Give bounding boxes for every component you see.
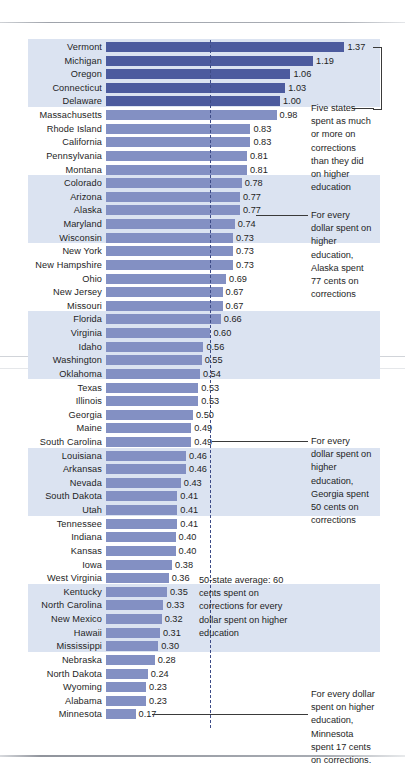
state-label: Louisiana <box>28 450 102 462</box>
value-label: 0.55 <box>205 354 223 366</box>
value-label: 0.41 <box>180 518 198 530</box>
state-label: North Carolina <box>28 599 102 611</box>
value-label: 0.38 <box>175 559 193 571</box>
state-label: Utah <box>28 504 102 516</box>
value-label: 0.46 <box>189 450 207 462</box>
state-label: Nebraska <box>28 654 102 666</box>
value-bar <box>106 96 280 106</box>
value-bar <box>106 696 146 706</box>
value-bar <box>106 342 203 352</box>
value-label: 0.41 <box>180 504 198 516</box>
value-bar <box>106 628 160 638</box>
value-bar <box>106 178 242 188</box>
value-label: 0.36 <box>172 572 190 584</box>
value-bar <box>106 165 247 175</box>
value-bar <box>106 437 191 447</box>
state-label: Georgia <box>28 409 102 421</box>
state-label: New Mexico <box>28 613 102 625</box>
state-label: Texas <box>28 382 102 394</box>
state-label: Hawaii <box>28 627 102 639</box>
value-label: 0.67 <box>226 300 244 312</box>
value-bar <box>106 423 191 433</box>
value-bar <box>106 478 181 488</box>
value-bar <box>106 151 247 161</box>
value-bar <box>106 669 148 679</box>
value-bar <box>106 396 198 406</box>
value-label: 0.60 <box>213 327 231 339</box>
value-bar <box>106 42 344 52</box>
value-bar <box>106 314 221 324</box>
state-label: New Hampshire <box>28 259 102 271</box>
state-label: Illinois <box>28 395 102 407</box>
state-label: Alabama <box>28 695 102 707</box>
value-bar <box>106 410 193 420</box>
value-bar <box>106 301 223 311</box>
value-label: 0.73 <box>236 232 254 244</box>
value-bar <box>106 655 155 665</box>
state-label: Idaho <box>28 341 102 353</box>
state-label: Arizona <box>28 191 102 203</box>
value-bar <box>106 614 162 624</box>
value-bar <box>106 641 158 651</box>
value-label: 0.54 <box>203 368 221 380</box>
state-label: South Dakota <box>28 490 102 502</box>
value-label: 0.23 <box>149 695 167 707</box>
value-bar <box>106 464 186 474</box>
value-bar <box>106 573 169 583</box>
value-bar <box>106 682 146 692</box>
value-bar <box>106 546 176 556</box>
value-label: 0.67 <box>226 286 244 298</box>
state-label: West Virginia <box>28 572 102 584</box>
state-label: Michigan <box>28 55 102 67</box>
state-label: Vermont <box>28 41 102 53</box>
state-label: Wisconsin <box>28 232 102 244</box>
state-label: Florida <box>28 313 102 325</box>
state-label: Colorado <box>28 177 102 189</box>
state-label: California <box>28 136 102 148</box>
value-label: 0.40 <box>179 531 197 543</box>
value-label: 0.74 <box>238 218 256 230</box>
annotation-minnesota: For every dollar spent on higher educati… <box>311 688 397 767</box>
value-bar <box>106 219 235 229</box>
state-label: Oregon <box>28 68 102 80</box>
value-bar <box>106 83 285 93</box>
value-label: 1.00 <box>283 95 301 107</box>
value-bar <box>106 519 177 529</box>
value-label: 0.81 <box>250 164 268 176</box>
state-label: Kentucky <box>28 586 102 598</box>
value-label: 0.77 <box>243 191 261 203</box>
value-label: 0.28 <box>158 654 176 666</box>
state-label: Arkansas <box>28 463 102 475</box>
bracket-top-five <box>373 47 382 110</box>
state-label: Tennessee <box>28 518 102 530</box>
leader-alaska <box>256 215 308 216</box>
value-bar <box>106 69 290 79</box>
state-label: North Dakota <box>28 668 102 680</box>
state-label: Montana <box>28 164 102 176</box>
state-label: Delaware <box>28 95 102 107</box>
value-label: 0.32 <box>165 613 183 625</box>
value-bar <box>106 491 177 501</box>
value-label: 0.66 <box>224 313 242 325</box>
state-label: Wyoming <box>28 681 102 693</box>
value-bar <box>106 355 202 365</box>
state-label: Missouri <box>28 300 102 312</box>
value-bar <box>106 600 163 610</box>
value-label: 0.40 <box>179 545 197 557</box>
state-label: Rhode Island <box>28 123 102 135</box>
value-label: 1.37 <box>347 41 365 53</box>
value-bar <box>106 369 200 379</box>
value-bar <box>106 505 177 515</box>
value-label: 0.35 <box>170 586 188 598</box>
value-bar <box>106 246 233 256</box>
value-bar <box>106 451 186 461</box>
state-label: Washington <box>28 354 102 366</box>
value-bar <box>106 274 226 284</box>
value-label: 0.98 <box>280 109 298 121</box>
state-label: Massachusetts <box>28 109 102 121</box>
value-label: 0.43 <box>184 477 202 489</box>
value-label: 0.31 <box>163 627 181 639</box>
value-bar <box>106 328 210 338</box>
state-label: Nevada <box>28 477 102 489</box>
state-label: Oklahoma <box>28 368 102 380</box>
